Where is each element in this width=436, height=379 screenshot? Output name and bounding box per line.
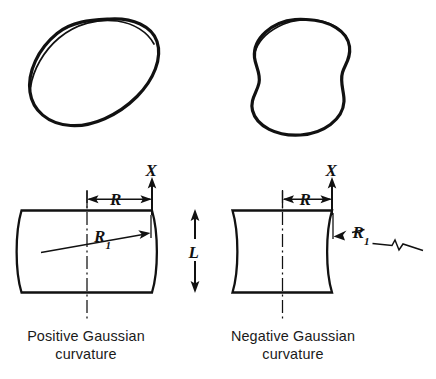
gaussian-curvature-figure: R X R 1 L — [0, 0, 436, 379]
label-R1-base-left: R — [93, 227, 105, 246]
label-R-left: R — [109, 190, 121, 209]
label-R1-subscript-left: 1 — [106, 239, 112, 251]
caption-right-line1: Negative Gaussian — [231, 328, 355, 344]
label-R1-subscript-right: 1 — [364, 235, 370, 247]
solid-positive-gaussian — [30, 19, 159, 126]
label-R-right: R — [299, 190, 311, 209]
label-L-center: L — [188, 243, 199, 262]
solid-negative-gaussian — [252, 19, 350, 135]
section-negative-gaussian: R X R 1 — [233, 161, 424, 323]
caption-negative-gaussian: Negative Gaussian curvature — [231, 328, 355, 362]
caption-right-line2: curvature — [262, 346, 323, 362]
section-positive-gaussian: R X R 1 — [17, 161, 158, 323]
barrel-solid-outline — [30, 19, 159, 126]
caption-left-line2: curvature — [55, 346, 116, 362]
figure-canvas: R X R 1 L — [0, 0, 436, 379]
length-dimension-center: L — [187, 209, 204, 293]
label-X-right: X — [325, 161, 338, 180]
hyperboloid-solid-outline — [252, 19, 350, 135]
r-dimension-right: R — [283, 190, 333, 209]
label-R1-base-right: R — [352, 223, 364, 242]
r1-zigzag-tail-right — [373, 240, 424, 251]
caption-left-line1: Positive Gaussian — [27, 328, 145, 344]
label-X-left: X — [145, 161, 158, 180]
r1-leader-right — [333, 213, 423, 251]
r-dimension-left: R — [87, 190, 152, 209]
caption-positive-gaussian: Positive Gaussian curvature — [27, 328, 145, 362]
